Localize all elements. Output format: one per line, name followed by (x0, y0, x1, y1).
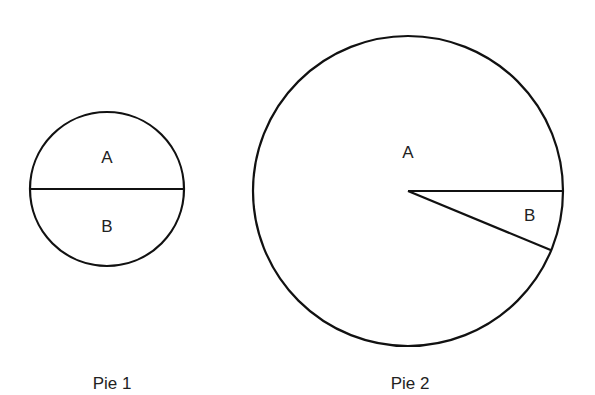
pie-comparison-figure: AB AB Pie 1 Pie 2 (0, 0, 595, 395)
slice-label-b: B (101, 217, 112, 236)
slice-label-a: A (101, 148, 113, 167)
slice-label-b: B (524, 206, 535, 225)
pie-1-caption: Pie 1 (93, 374, 132, 393)
pie-2: AB (253, 36, 563, 346)
slice-label-a: A (402, 143, 414, 162)
pie-1: AB (30, 112, 184, 266)
pie-2-caption: Pie 2 (391, 374, 430, 393)
